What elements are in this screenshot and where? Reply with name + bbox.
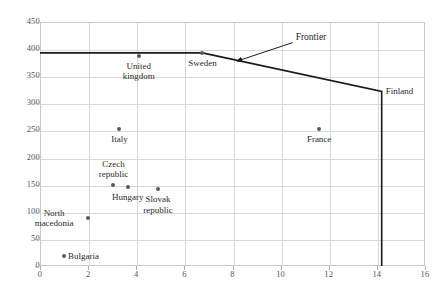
x-axis-tick-label: 14 [362,270,392,279]
point-label-finland: Finland [386,86,445,97]
data-point-sweden[interactable] [200,51,204,55]
y-axis-tick-mark [35,266,39,267]
data-point-bulgaria[interactable] [62,254,66,258]
x-axis-tick-mark [184,266,185,270]
x-axis-tick-label: 10 [266,270,296,279]
x-axis-tick-label: 16 [410,270,440,279]
point-label-czech-republic: Czech republic [82,159,144,180]
point-label-france: France [288,134,350,145]
x-axis-tick-mark [377,266,378,270]
gridline-vertical [378,23,379,265]
x-axis-tick-label: 6 [169,270,199,279]
point-label-north-macedonia: North macedonia [23,208,85,229]
scatter-chart: 050100150200250300350400450 024681012141… [0,0,445,298]
x-axis-tick-mark [136,266,137,270]
frontier-label: Frontier [296,32,327,42]
x-axis-tick-label: 12 [314,270,344,279]
y-axis-tick-mark [35,158,39,159]
y-axis-tick-mark [35,130,39,131]
point-label-slovak-republic: Slovak republic [127,194,189,215]
x-axis-tick-mark [329,266,330,270]
gridline-horizontal [41,77,424,78]
gridline-horizontal [41,213,424,214]
gridline-horizontal [41,186,424,187]
gridline-vertical [282,23,283,265]
y-axis-tick-mark [35,76,39,77]
point-label-united-kingdom: United kingdom [108,61,170,82]
data-point-czech-republic[interactable] [111,183,115,187]
gridline-horizontal [41,240,424,241]
x-axis-tick-mark [40,266,41,270]
data-point-hungary[interactable] [126,185,130,189]
x-axis: 0246810121416 [40,266,425,284]
x-axis-tick-label: 4 [121,270,151,279]
data-point-north-macedonia[interactable] [86,216,90,220]
gridline-vertical [234,23,235,265]
y-axis-tick-mark [35,239,39,240]
gridline-horizontal [41,50,424,51]
y-axis-tick-mark [35,22,39,23]
point-label-bulgaria: Bulgaria [68,251,130,262]
x-axis-tick-label: 2 [73,270,103,279]
y-axis-tick-mark [35,103,39,104]
x-axis-tick-label: 8 [218,270,248,279]
x-axis-tick-mark [425,266,426,270]
data-point-united-kingdom[interactable] [137,54,141,58]
data-point-slovak-republic[interactable] [156,187,160,191]
x-axis-tick-mark [233,266,234,270]
x-axis-tick-label: 0 [25,270,55,279]
y-axis: 050100150200250300350400450 [0,22,40,266]
data-point-italy[interactable] [117,127,121,131]
gridline-horizontal [41,104,424,105]
x-axis-tick-mark [88,266,89,270]
y-axis-tick-mark [35,185,39,186]
gridline-horizontal [41,131,424,132]
point-label-sweden: Sweden [171,58,233,69]
data-point-france[interactable] [317,127,321,131]
x-axis-tick-mark [281,266,282,270]
point-label-italy: Italy [88,134,150,145]
y-axis-tick-mark [35,49,39,50]
